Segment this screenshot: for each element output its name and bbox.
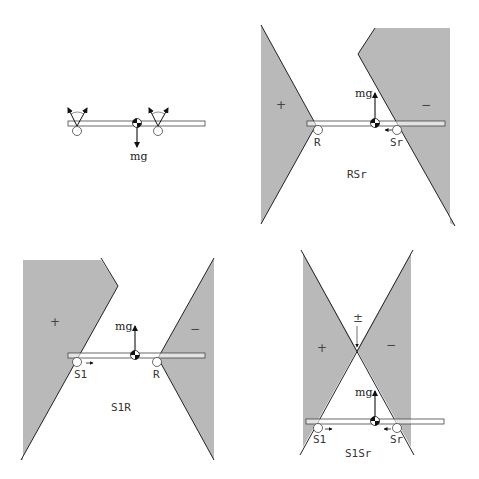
sign-plus: +: [317, 341, 327, 355]
center-of-mass-icon: [131, 351, 140, 360]
contact-right: [154, 127, 163, 136]
diagram-canvas: mg + − mg R Sr RSr + −: [0, 0, 479, 479]
force-label: mg: [115, 320, 132, 333]
sign-minus: −: [190, 322, 200, 336]
center-of-mass-icon: [371, 119, 380, 128]
contact-R: [314, 126, 323, 135]
region-label: S1Sr: [345, 447, 372, 460]
region-minus: [357, 253, 411, 447]
panel-S1Sr: + − ± mg S1 Sr S1Sr: [300, 250, 444, 460]
contact-Sr: [393, 424, 402, 433]
contact-label-R: R: [314, 136, 321, 149]
contact-label-S1: S1: [313, 433, 326, 446]
sign-plus-minus: ±: [353, 311, 363, 325]
region-plus: [303, 253, 357, 447]
region-label: RSr: [347, 168, 367, 181]
region-label: S1R: [111, 401, 131, 414]
contact-label-Sr: Sr: [390, 136, 404, 149]
contact-S1: [73, 358, 82, 367]
sign-minus: −: [421, 98, 431, 112]
sign-plus: +: [276, 98, 286, 112]
contact-label-S1: S1: [74, 368, 87, 381]
contact-label-R: R: [153, 368, 160, 381]
sign-plus: +: [50, 315, 60, 329]
region-plus: [21, 260, 118, 460]
contact-R: [153, 358, 162, 367]
contact-left: [73, 127, 82, 136]
panel-free-body: mg: [68, 108, 205, 163]
sign-minus: −: [386, 338, 396, 352]
region-minus: [158, 258, 214, 460]
panel-RSr: + − mg R Sr RSr: [261, 25, 455, 226]
center-of-mass-icon: [371, 417, 380, 426]
contact-S1: [314, 424, 323, 433]
contact-label-Sr: Sr: [390, 433, 404, 446]
panel-S1R: + − mg S1 R S1R: [21, 258, 214, 460]
force-label: mg: [355, 87, 372, 100]
center-of-mass-icon: [133, 119, 142, 128]
contact-Sr: [393, 126, 402, 135]
force-label: mg: [355, 386, 372, 399]
force-label: mg: [130, 150, 147, 163]
